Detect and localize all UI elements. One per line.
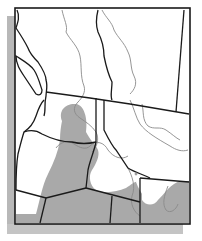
locality-dot	[135, 173, 138, 176]
range-map	[0, 0, 202, 241]
